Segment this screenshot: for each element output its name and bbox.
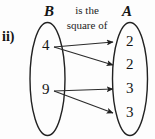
mapping-arrow-9-to-3a bbox=[54, 89, 113, 91]
set-b-name: B bbox=[44, 4, 54, 19]
set-a-element-2-second: 2 bbox=[126, 57, 134, 72]
set-a-name: A bbox=[122, 4, 132, 19]
set-b-element-4: 4 bbox=[42, 38, 50, 53]
mapping-diagram: ii) B A is the square of 4 9 2 2 3 3 bbox=[0, 0, 155, 139]
mapping-arrow-4-to-2a bbox=[54, 42, 113, 47]
set-a-element-3-second: 3 bbox=[126, 105, 134, 120]
enumeration-label: ii) bbox=[2, 30, 14, 44]
set-a-element-3-first: 3 bbox=[126, 81, 134, 96]
relation-caption-line-2: square of bbox=[62, 19, 112, 31]
set-a-element-2-first: 2 bbox=[126, 34, 134, 49]
relation-caption-line-1: is the bbox=[62, 4, 112, 16]
set-b-element-9: 9 bbox=[42, 82, 50, 97]
relation-caption: is the square of bbox=[62, 4, 112, 31]
